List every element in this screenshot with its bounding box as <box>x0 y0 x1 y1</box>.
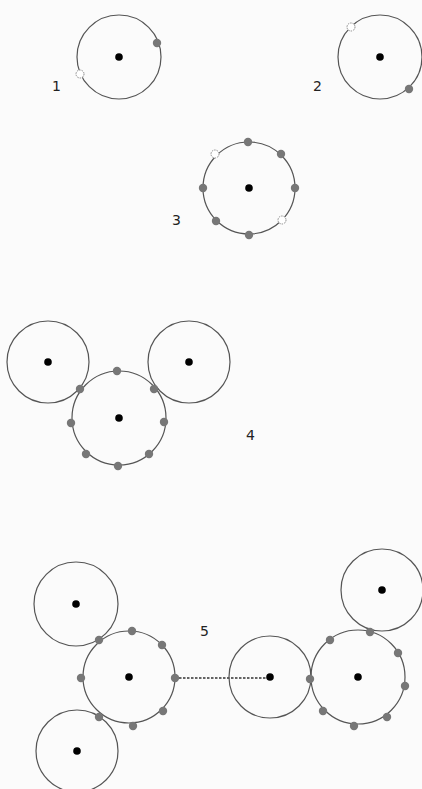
open-electron-site <box>211 150 219 158</box>
electron-dot <box>128 627 136 635</box>
nucleus-dot <box>185 358 193 366</box>
electron-dot <box>76 385 84 393</box>
figure-label: 1 <box>52 78 61 94</box>
nucleus-dot <box>115 53 123 61</box>
electron-dot <box>153 39 161 47</box>
electron-dot <box>350 722 358 730</box>
electron-dot <box>244 138 252 146</box>
figure-1: 1 <box>52 15 161 99</box>
figure-4: 4 <box>7 321 255 470</box>
electron-dot <box>212 217 220 225</box>
figure-5: 5 <box>34 549 422 789</box>
electron-dot <box>291 184 299 192</box>
open-electron-site <box>278 216 286 224</box>
electron-dot <box>401 682 409 690</box>
electron-dot <box>145 450 153 458</box>
electron-dot <box>199 184 207 192</box>
electron-dot <box>277 150 285 158</box>
electron-dot <box>160 418 168 426</box>
nucleus-dot <box>115 414 123 422</box>
figure-3: 3 <box>172 138 299 239</box>
electron-dot <box>319 707 327 715</box>
figure-2: 2 <box>313 15 422 99</box>
electron-dot <box>82 450 90 458</box>
electron-dot <box>158 641 166 649</box>
electron-shell-diagram: 12345 <box>0 0 422 789</box>
electron-dot <box>159 707 167 715</box>
electron-dot <box>326 636 334 644</box>
nucleus-dot <box>125 673 133 681</box>
open-electron-site <box>76 70 84 78</box>
electron-dot <box>95 713 103 721</box>
electron-dot <box>113 367 121 375</box>
electron-dot <box>383 713 391 721</box>
electron-dot <box>95 636 103 644</box>
figure-label: 4 <box>246 427 255 443</box>
electron-dot <box>394 649 402 657</box>
open-electron-site <box>347 23 355 31</box>
nucleus-dot <box>72 600 80 608</box>
electron-dot <box>366 628 374 636</box>
figure-label: 5 <box>200 623 209 639</box>
electron-dot <box>150 385 158 393</box>
nucleus-dot <box>73 747 81 755</box>
figure-label: 3 <box>172 212 181 228</box>
figure-label: 2 <box>313 78 322 94</box>
nucleus-dot <box>266 673 274 681</box>
electron-dot <box>405 85 413 93</box>
nucleus-dot <box>44 358 52 366</box>
electron-dot <box>171 674 179 682</box>
electron-dot <box>67 419 75 427</box>
electron-dot <box>245 231 253 239</box>
nucleus-dot <box>378 586 386 594</box>
electron-dot <box>129 722 137 730</box>
electron-dot <box>114 462 122 470</box>
electron-dot <box>306 675 314 683</box>
nucleus-dot <box>245 184 253 192</box>
electron-dot <box>77 674 85 682</box>
nucleus-dot <box>354 673 362 681</box>
nucleus-dot <box>376 53 384 61</box>
